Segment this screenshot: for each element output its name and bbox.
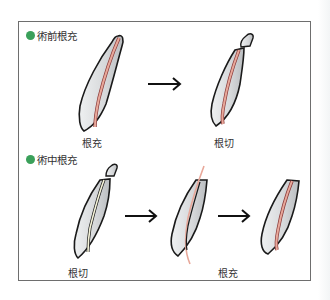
arrow-2 bbox=[125, 210, 156, 222]
step-label: 根切 bbox=[68, 265, 88, 280]
tooth-retrograde-filled-icon bbox=[261, 180, 299, 254]
arrow-3 bbox=[218, 210, 249, 222]
arrow-1 bbox=[148, 78, 180, 90]
tooth-apex-resected-icon bbox=[211, 34, 253, 126]
step-label: 根充 bbox=[218, 265, 238, 280]
tooth-apex-resected-unfilled-icon bbox=[74, 164, 117, 258]
tooth-root-filled-icon bbox=[79, 36, 123, 131]
tooth-cut-line-icon bbox=[171, 166, 207, 264]
step-label: 根充 bbox=[82, 135, 102, 150]
step-label: 根切 bbox=[214, 135, 234, 150]
